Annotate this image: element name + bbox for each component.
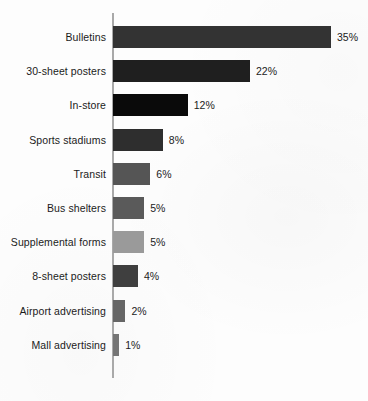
category-label: Bus shelters: [47, 193, 106, 223]
bar-row: Mall advertising1%: [0, 330, 368, 360]
value-label: 8%: [169, 125, 184, 155]
value-label: 1%: [125, 330, 140, 360]
bar: [113, 231, 144, 253]
value-label: 5%: [150, 193, 165, 223]
category-label: Bulletins: [65, 22, 106, 52]
value-label: 2%: [131, 296, 146, 326]
bar: [113, 265, 138, 287]
bar-chart: Bulletins35%30-sheet posters22%In-store1…: [0, 0, 368, 401]
bar-row: 8-sheet posters4%: [0, 261, 368, 291]
bar: [113, 334, 119, 356]
bar-row: Bulletins35%: [0, 22, 368, 52]
bar-row: Bus shelters5%: [0, 193, 368, 223]
bar: [113, 163, 150, 185]
bar: [113, 60, 250, 82]
bar-row: Transit6%: [0, 159, 368, 189]
bar-row: Supplemental forms5%: [0, 227, 368, 257]
bar: [113, 94, 188, 116]
bar: [113, 197, 144, 219]
category-label: 30-sheet posters: [26, 56, 106, 86]
value-label: 35%: [337, 22, 358, 52]
bar-row: Airport advertising2%: [0, 296, 368, 326]
value-label: 22%: [256, 56, 277, 86]
category-label: In-store: [70, 90, 106, 120]
bar: [113, 26, 331, 48]
category-label: Airport advertising: [19, 296, 106, 326]
category-label: 8-sheet posters: [32, 261, 106, 291]
bar: [113, 129, 163, 151]
value-label: 12%: [194, 90, 215, 120]
value-label: 5%: [150, 227, 165, 257]
category-label: Mall advertising: [31, 330, 106, 360]
value-label: 4%: [144, 261, 159, 291]
category-label: Sports stadiums: [29, 125, 106, 155]
category-label: Supplemental forms: [11, 227, 106, 257]
bar-row: In-store12%: [0, 90, 368, 120]
bar-row: 30-sheet posters22%: [0, 56, 368, 86]
value-label: 6%: [156, 159, 171, 189]
category-label: Transit: [74, 159, 106, 189]
bar: [113, 300, 125, 322]
bar-row: Sports stadiums8%: [0, 125, 368, 155]
